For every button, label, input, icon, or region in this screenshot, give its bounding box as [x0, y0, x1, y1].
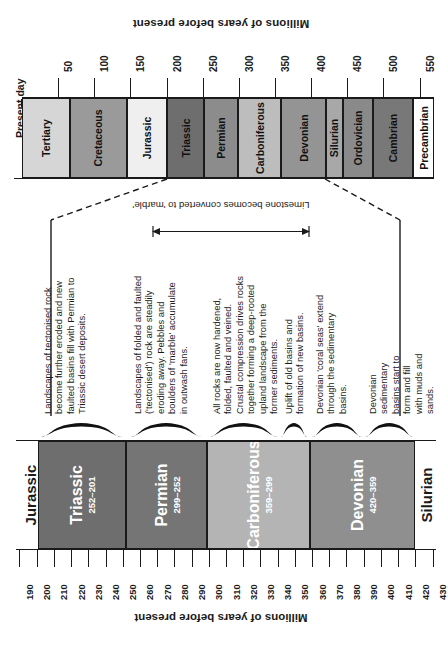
bottom-tick-label: 230 [93, 584, 104, 600]
top-tick-line [58, 78, 59, 98]
brace-uplift-new-basins [281, 421, 307, 437]
top-axis-title: Millions of years before present [133, 18, 309, 30]
top-period-label: Ordovician [352, 111, 364, 166]
bottom-tick-label: 430 [437, 584, 448, 600]
bottom-tick-line [157, 550, 158, 567]
top-tick-label: 400 [316, 55, 327, 72]
top-tick-label: 500 [388, 55, 399, 72]
bottom-tick-label: 190 [24, 584, 35, 600]
marble-annotation: Limestone becomes converted to 'marble' [131, 199, 311, 211]
bottom-outer-label-silurian: Silurian [417, 467, 434, 522]
bottom-tick-label: 270 [162, 584, 173, 600]
bottom-tick-line [260, 550, 261, 567]
bottom-axis-title: Millions of years before present [134, 612, 307, 624]
bottom-period-range: 420–359 [366, 459, 377, 531]
bottom-tick-line [71, 550, 72, 567]
top-period-label: Precambrian [418, 106, 430, 170]
bottom-tick-line [243, 550, 244, 567]
brace-devonian-basins-fill [365, 421, 413, 437]
bottom-tick-line [88, 550, 89, 567]
bottom-tick-label: 210 [58, 584, 69, 600]
top-tick-line [383, 78, 384, 98]
top-period-label: Silurian [328, 119, 340, 158]
top-tick-line [347, 78, 348, 98]
bottom-tick-line [381, 550, 382, 567]
brace-devonian-coral-seas [312, 421, 362, 437]
top-period-label: Permian [215, 117, 227, 158]
description-hardened-folded-faulted: All rocks are now hardened, folded, faul… [211, 276, 279, 414]
bottom-tick-line [174, 550, 175, 567]
bottom-period-name: Carboniferous [244, 441, 262, 549]
bottom-period-label-group: Triassic252–201 [68, 465, 97, 525]
top-tick-label: 550 [425, 55, 436, 72]
bottom-period-permian: Permian299–252 [126, 441, 207, 549]
bottom-period-name: Triassic [68, 465, 86, 525]
top-period-cretaceous: Cretaceous [70, 98, 127, 178]
bottom-tick-line [364, 550, 365, 567]
bottom-tick-line [19, 550, 20, 567]
top-tick-line [420, 78, 421, 98]
marble-extent-arrow [152, 226, 310, 237]
bottom-tick-label: 390 [368, 584, 379, 600]
bottom-period-devonian: Devonian420–359 [310, 441, 415, 549]
top-tick-line [167, 78, 168, 98]
top-tick-label: 150 [135, 55, 146, 72]
bottom-tick-label: 310 [231, 584, 242, 600]
bottom-tick-line [278, 550, 279, 567]
bottom-tick-label: 220 [76, 584, 87, 600]
bottom-tick-label: 330 [265, 584, 276, 600]
brace-tectonised-erosion [40, 421, 123, 437]
description-devonian-coral-seas: Devonian 'coral seas' extend through the… [314, 295, 348, 414]
bottom-tick-label: 260 [144, 584, 155, 600]
top-period-carboniferous: Carboniferous [238, 98, 281, 178]
top-tick-label: 200 [172, 55, 183, 72]
bottom-tick-label: 200 [41, 584, 52, 600]
bottom-tick-line [140, 550, 141, 567]
top-tick-label: 100 [99, 55, 110, 72]
bottom-tick-label: 370 [334, 584, 345, 600]
top-tick-line [203, 78, 204, 98]
bottom-tick-label: 250 [127, 584, 138, 600]
bottom-tick-label: 340 [282, 584, 293, 600]
top-tick-line [94, 78, 95, 98]
top-period-bar: TertiaryCretaceousJurassicTriassicPermia… [22, 98, 434, 178]
top-period-triassic: Triassic [167, 98, 204, 178]
top-period-jurassic: Jurassic [127, 98, 167, 178]
bottom-tick-line [54, 550, 55, 567]
bottom-period-label-group: Carboniferous359–299 [244, 441, 273, 549]
bottom-tick-line [226, 550, 227, 567]
bottom-period-label-group: Devonian420–359 [348, 459, 377, 531]
bottom-period-carboniferous: Carboniferous359–299 [207, 441, 310, 549]
bottom-period-range: 359–299 [262, 441, 273, 549]
top-period-devonian: Devonian [281, 98, 325, 178]
bottom-tick-label: 300 [213, 584, 224, 600]
top-period-cambrian: Cambrian [373, 98, 413, 178]
bottom-tick-label: 240 [110, 584, 121, 600]
top-period-label: Carboniferous [254, 102, 266, 174]
bottom-tick-label: 320 [248, 584, 259, 600]
top-period-label: Cretaceous [92, 109, 104, 166]
bottom-tick-line [106, 550, 107, 567]
brace-hardened-folded-faulted [209, 421, 278, 437]
bottom-tick-line [329, 550, 330, 567]
bottom-tick-line [312, 550, 313, 567]
bottom-period-range: 252–201 [86, 465, 97, 525]
top-period-ordovician: Ordovician [343, 98, 373, 178]
description-tectonised-erosion: Landscapes of tectonised rock become fur… [42, 277, 88, 414]
top-period-permian: Permian [204, 98, 238, 178]
bottom-outer-label-jurassic: Jurassic [21, 465, 38, 526]
bottom-tick-label: 290 [196, 584, 207, 600]
bottom-period-bar: Triassic252–201Permian299–252Carbonifero… [38, 441, 415, 549]
top-period-tertiary: Tertiary [22, 98, 70, 178]
top-tick-label: 450 [352, 55, 363, 72]
bottom-tick-label: 400 [385, 584, 396, 600]
bottom-tick-line [123, 550, 124, 567]
top-tick-label: 350 [280, 55, 291, 72]
top-period-label: Jurassic [141, 117, 153, 160]
bottom-tick-line [398, 550, 399, 567]
top-tick-line [311, 78, 312, 98]
top-period-silurian: Silurian [326, 98, 343, 178]
top-tick-label: 250 [208, 55, 219, 72]
bottom-tick-label: 280 [179, 584, 190, 600]
